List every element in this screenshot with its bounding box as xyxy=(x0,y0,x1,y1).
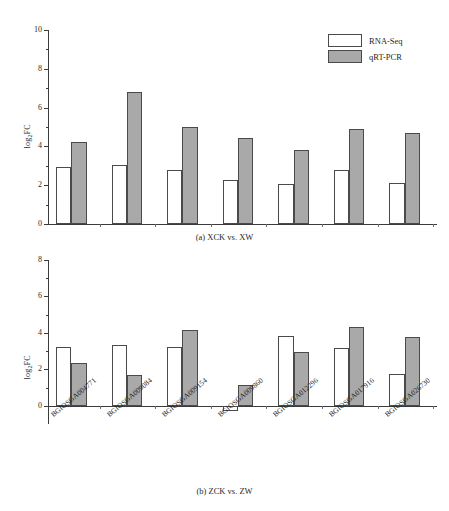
y-tick xyxy=(44,30,48,31)
figure-root: 0246810 log2FC RNA-Seq qRT-PCR (a) XCK v… xyxy=(0,0,449,511)
legend: RNA-Seq qRT-PCR xyxy=(328,34,403,63)
x-tick xyxy=(266,224,267,227)
x-tick xyxy=(211,406,212,409)
y-tick xyxy=(44,296,48,297)
panel-caption-a: (a) XCK vs. XW xyxy=(0,232,449,242)
bar-qrt-pcr xyxy=(294,150,309,224)
bar-rna-seq xyxy=(278,184,293,224)
legend-label-rna-seq: RNA-Seq xyxy=(369,36,403,46)
y-tick xyxy=(44,369,48,370)
x-tick xyxy=(100,406,101,409)
bar-qrt-pcr xyxy=(71,142,86,224)
y-tick xyxy=(44,406,48,407)
y-tick-minor xyxy=(46,127,49,128)
y-tick-label: 0 xyxy=(38,220,42,228)
y-tick-label: 10 xyxy=(34,26,42,34)
x-tick xyxy=(211,224,212,227)
chart-panel-b: 02468 log2FC BGIOSGA004771BGIOSGA009084B… xyxy=(0,248,449,508)
bar-rna-seq xyxy=(167,170,182,224)
bar-qrt-pcr xyxy=(182,127,197,224)
bar-qrt-pcr xyxy=(349,129,364,224)
y-tick xyxy=(44,69,48,70)
y-tick-minor xyxy=(46,388,49,389)
y-axis-label-base-b: log xyxy=(23,368,32,379)
y-tick-label: 6 xyxy=(38,104,42,112)
y-tick-minor xyxy=(46,205,49,206)
x-tick xyxy=(433,406,434,409)
bar-rna-seq xyxy=(112,165,127,224)
panel-caption-b: (b) ZCK vs. ZW xyxy=(0,486,449,496)
bar-rna-seq xyxy=(334,170,349,224)
y-tick-label: 8 xyxy=(38,65,42,73)
y-tick xyxy=(44,333,48,334)
x-tick xyxy=(266,406,267,409)
bar-rna-seq xyxy=(223,180,238,224)
legend-swatch-qrt-pcr xyxy=(328,50,362,63)
bar-qrt-pcr xyxy=(405,133,420,224)
y-tick-minor xyxy=(46,88,49,89)
y-tick-minor xyxy=(46,49,49,50)
chart-panel-a: 0246810 log2FC RNA-Seq qRT-PCR (a) XCK v… xyxy=(0,18,449,240)
x-tick xyxy=(155,224,156,227)
y-axis-label-base-a: log xyxy=(23,137,32,148)
y-axis-label-a: log2FC xyxy=(23,116,34,156)
y-tick-minor xyxy=(46,278,49,279)
y-axis-label-tail-b: FC xyxy=(23,355,32,365)
y-tick xyxy=(44,260,48,261)
legend-swatch-rna-seq xyxy=(328,34,362,47)
legend-label-qrt-pcr: qRT-PCR xyxy=(369,52,402,62)
bar-qrt-pcr xyxy=(238,138,253,224)
x-tick xyxy=(322,406,323,409)
y-tick-label: 4 xyxy=(38,142,42,150)
y-axis-label-b: log2FC xyxy=(23,347,34,387)
bar-rna-seq xyxy=(56,167,71,224)
y-tick-label: 4 xyxy=(38,329,42,337)
y-tick-label: 0 xyxy=(38,402,42,410)
y-tick-label: 8 xyxy=(38,256,42,264)
x-tick xyxy=(433,224,434,227)
y-tick xyxy=(44,224,48,225)
y-axis-label-sub-a: 2 xyxy=(27,134,33,137)
bar-qrt-pcr xyxy=(127,92,142,224)
y-tick-label: 2 xyxy=(38,365,42,373)
y-axis-label-sub-b: 2 xyxy=(27,365,33,368)
y-axis-label-tail-a: FC xyxy=(23,124,32,134)
x-axis-a xyxy=(48,224,437,225)
y-tick-minor xyxy=(46,315,49,316)
y-tick-minor xyxy=(46,351,49,352)
legend-item-rna-seq: RNA-Seq xyxy=(328,34,403,47)
y-tick-minor xyxy=(46,166,49,167)
y-tick xyxy=(44,108,48,109)
x-tick xyxy=(378,224,379,227)
x-tick xyxy=(322,224,323,227)
y-tick-label: 2 xyxy=(38,181,42,189)
y-tick xyxy=(44,185,48,186)
x-tick xyxy=(155,406,156,409)
x-tick xyxy=(100,224,101,227)
bar-rna-seq xyxy=(389,183,404,224)
legend-item-qrt-pcr: qRT-PCR xyxy=(328,50,403,63)
y-tick xyxy=(44,146,48,147)
y-tick-label: 6 xyxy=(38,292,42,300)
x-tick xyxy=(378,406,379,409)
